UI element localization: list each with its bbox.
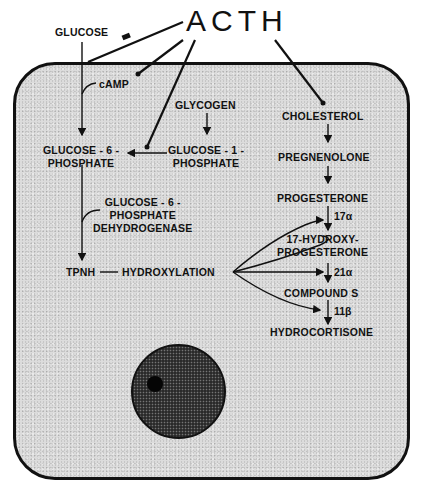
hydrocortisone-label: HYDROCORTISONE <box>270 326 373 339</box>
enzyme-17alpha: 17α <box>334 210 352 222</box>
glycogen-label: GLYCOGEN <box>175 99 236 112</box>
glucose-6-phosphate-label: GLUCOSE - 6 - PHOSPHATE <box>43 144 119 170</box>
g6pd-label: GLUCOSE - 6 - PHOSPHATE DEHYDROGENASE <box>93 196 192 235</box>
tpnh-label: TPNH <box>66 266 95 279</box>
glucose-label: GLUCOSE <box>55 26 108 39</box>
progesterone-label: PROGESTERONE <box>277 192 368 205</box>
enzyme-21alpha: 21α <box>334 266 352 278</box>
cholesterol-label: CHOLESTEROL <box>282 110 364 123</box>
glucose-1-phosphate-label: GLUCOSE - 1 - PHOSPHATE <box>168 144 244 170</box>
17-hydroxyprogesterone-label: 17-HYDROXY- PROGESTERONE <box>277 233 368 259</box>
acth-label: ACTH <box>186 4 288 38</box>
compound-s-label: COMPOUND S <box>284 287 358 300</box>
camp-label: cAMP <box>99 78 129 91</box>
pregnenolone-label: PREGNENOLONE <box>278 151 370 164</box>
hydroxylation-label: HYDROXYLATION <box>122 266 215 279</box>
enzyme-11beta: 11β <box>334 305 352 317</box>
acth-diagram: ACTH GLUCOSE cAMP GLYCOGEN GLUCOSE - 6 -… <box>0 0 426 496</box>
